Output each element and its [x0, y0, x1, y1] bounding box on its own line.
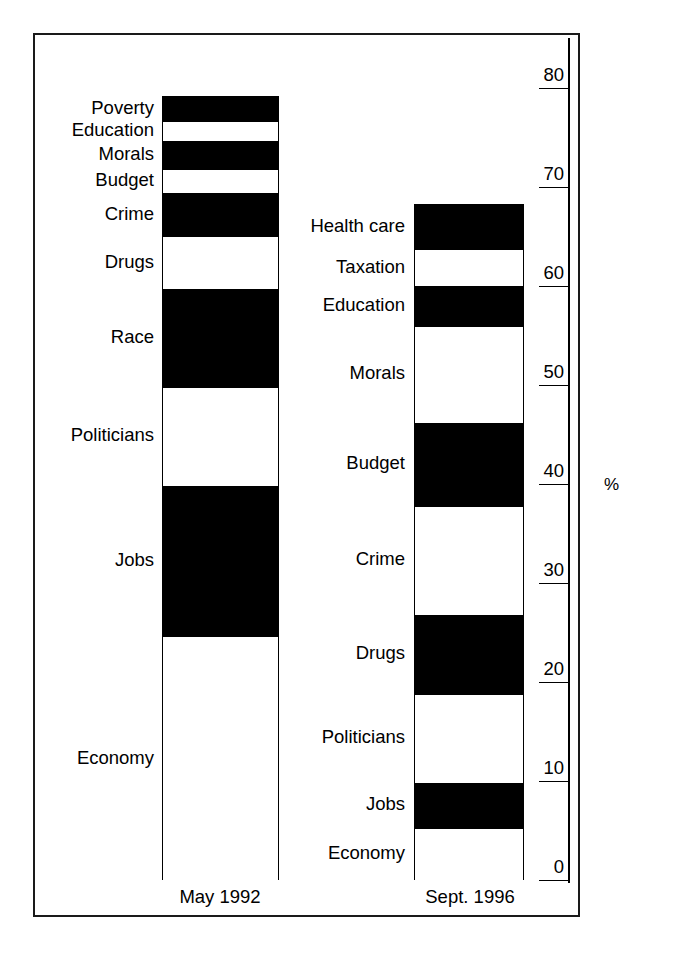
segment-label: Health care [310, 217, 405, 236]
bar-segment [163, 141, 278, 169]
y-axis-tick-label-60: 60 [520, 264, 564, 283]
segment-label: Politicians [71, 426, 154, 445]
segment-label: Economy [328, 844, 405, 863]
bar-segment [415, 326, 523, 423]
bar-segment [415, 694, 523, 783]
segment-label: Education [72, 121, 154, 140]
y-axis-tick-30 [539, 583, 570, 584]
y-axis-tick-0 [539, 880, 570, 881]
bar-segment [415, 286, 523, 326]
bar-segment [163, 636, 278, 881]
y-axis-tick-label-70: 70 [520, 165, 564, 184]
segment-label: Jobs [366, 795, 405, 814]
y-axis-line [568, 38, 570, 883]
segment-label: Education [323, 296, 405, 315]
stacked-bar-chart-figure: 80706050403020100 % EconomyJobsPoliticia… [0, 0, 673, 968]
segment-label: Poverty [91, 99, 154, 118]
segment-label: Budget [346, 454, 405, 473]
bar-segment [163, 193, 278, 237]
segment-label: Morals [349, 364, 405, 383]
segment-label: Taxation [336, 257, 405, 276]
bar-segment [163, 289, 278, 387]
segment-label: Budget [95, 171, 154, 190]
bar-segment [415, 615, 523, 694]
bar-segment [415, 506, 523, 615]
bar-segment [415, 249, 523, 286]
y-axis-tick-label-10: 10 [520, 759, 564, 778]
y-axis-tick-label-30: 30 [520, 561, 564, 580]
segment-label: Race [111, 328, 154, 347]
bar-segment [415, 205, 523, 250]
y-axis-tick-label-80: 80 [520, 66, 564, 85]
y-axis-tick-10 [539, 781, 570, 782]
segment-label: Drugs [105, 252, 154, 271]
y-axis-tick-70 [539, 187, 570, 188]
y-axis-tick-label-0: 0 [520, 858, 564, 877]
category-label-sept-1996: Sept. 1996 [390, 888, 550, 907]
segment-label: Morals [98, 145, 154, 164]
segment-label: Jobs [115, 551, 154, 570]
y-axis-tick-label-50: 50 [520, 363, 564, 382]
bar-sept-1996 [414, 204, 524, 880]
bar-may-1992 [162, 96, 279, 880]
bar-segment [163, 97, 278, 121]
bar-segment [415, 828, 523, 881]
segment-label: Politicians [322, 728, 405, 747]
segment-label: Economy [77, 748, 154, 767]
bar-segment [163, 236, 278, 288]
y-axis-tick-20 [539, 682, 570, 683]
y-axis-tick-label-20: 20 [520, 660, 564, 679]
y-axis-tick-60 [539, 286, 570, 287]
bar-segment [163, 387, 278, 486]
bar-segment [415, 783, 523, 828]
segment-label: Drugs [356, 644, 405, 663]
bar-segment [163, 121, 278, 142]
y-axis-tick-80 [539, 88, 570, 89]
category-label-may-1992: May 1992 [140, 888, 300, 907]
segment-label: Crime [356, 550, 405, 569]
segment-label: Crime [105, 204, 154, 223]
bar-segment [163, 169, 278, 193]
y-axis-unit-label: % [604, 476, 619, 493]
bar-segment [415, 423, 523, 506]
y-axis-tick-40 [539, 484, 570, 485]
bar-segment [163, 486, 278, 636]
y-axis-tick-label-40: 40 [520, 462, 564, 481]
y-axis-tick-50 [539, 385, 570, 386]
